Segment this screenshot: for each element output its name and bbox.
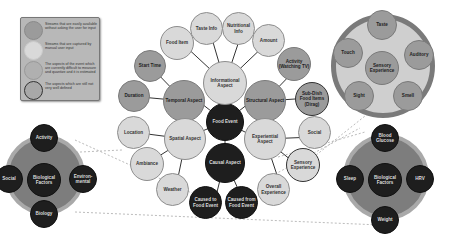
location-node: Location bbox=[117, 116, 150, 149]
sensory-experience-node: Sensory Experience bbox=[286, 148, 320, 182]
biology-node: Biology bbox=[30, 200, 58, 228]
legend-text: The aspects of the event which are curre… bbox=[45, 62, 99, 75]
start-time-node: Start Time bbox=[134, 50, 166, 82]
taste-info-node: Taste Info bbox=[190, 12, 223, 45]
weather-node: Weather bbox=[156, 173, 189, 206]
taste-node: Taste bbox=[367, 10, 397, 40]
sensory-center-node: Sensory Experience bbox=[365, 51, 399, 85]
temporal-aspect-node: Temporal Aspect bbox=[163, 80, 205, 122]
legend-item: Streams that are captured by manual user… bbox=[24, 41, 98, 60]
blood-glucose-node: Blood Glucose bbox=[371, 124, 399, 152]
sub-dish-node: Sub-Dish Food Items (Dirag) bbox=[295, 82, 329, 116]
overall-experience-node: Overall Experience bbox=[257, 173, 290, 206]
ambiance-node: Ambiance bbox=[130, 147, 164, 181]
caused-from-node: Caused from Food Event bbox=[225, 186, 258, 219]
bio-right-center-node: Biological Factors bbox=[368, 163, 402, 197]
legend-item: Streams that are easily available withou… bbox=[24, 21, 98, 40]
legend-item: The aspects of the event which are curre… bbox=[24, 61, 98, 80]
food-item-node: Food Item bbox=[160, 26, 194, 60]
environmental-node: Environ-mental bbox=[69, 165, 97, 193]
legend-item: The aspects which are still not very wel… bbox=[24, 81, 98, 100]
legend-text: Streams that are captured by manual user… bbox=[45, 42, 99, 50]
legend-text: The aspects which are still not very wel… bbox=[45, 82, 99, 90]
activity-tv-node: Activity (Watching TV) bbox=[277, 47, 311, 81]
structural-aspect-node: Structural Aspect bbox=[244, 80, 286, 122]
legend-swatch-auto bbox=[24, 21, 43, 40]
legend-swatch-estimated bbox=[24, 61, 43, 80]
sight-node: Sight bbox=[344, 81, 374, 111]
social-node: Social bbox=[298, 116, 331, 149]
spatial-aspect-node: Spatial Aspect bbox=[164, 118, 206, 160]
sleep-node: Sleep bbox=[336, 165, 364, 193]
legend-box: Streams that are easily available withou… bbox=[20, 17, 100, 101]
duration-node: Duration bbox=[118, 80, 150, 112]
legend-swatch-undefined bbox=[24, 81, 43, 100]
legend-swatch-manual bbox=[24, 41, 43, 60]
activity-bio-node: Activity bbox=[30, 124, 58, 152]
causal-aspect-node: Causal Aspect bbox=[205, 143, 245, 183]
legend-text: Streams that are easily available withou… bbox=[45, 22, 99, 30]
nutritional-info-node: Nutritional Info bbox=[222, 12, 255, 45]
food-event-node: Food Event bbox=[206, 103, 244, 141]
weight-node: Weight bbox=[371, 206, 399, 234]
bio-left-center-node: Biological Factors bbox=[27, 163, 61, 197]
experiential-aspect-node: Experiential Aspect bbox=[244, 118, 286, 160]
smell-node: Smell bbox=[393, 81, 423, 111]
auditory-node: Auditory bbox=[404, 40, 434, 70]
informational-aspect-node: Informational Aspect bbox=[203, 61, 247, 105]
hrv-node: HRV bbox=[406, 165, 434, 193]
caused-to-node: Caused to Food Event bbox=[189, 186, 222, 219]
touch-node: Touch bbox=[333, 38, 363, 68]
